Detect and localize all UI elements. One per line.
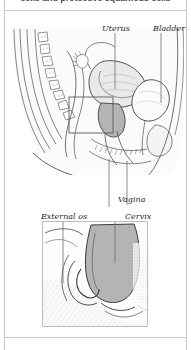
label-bladder: Bladder xyxy=(153,24,185,33)
label-uterus: Uterus xyxy=(102,24,130,33)
ovary xyxy=(76,54,88,68)
cervix-detail xyxy=(85,224,139,303)
page-caption: cells and protective squamous cells xyxy=(6,0,185,3)
label-external-os: External os xyxy=(41,212,87,221)
page-border-bottom xyxy=(4,337,187,338)
anatomy-figure: Uterus Bladder Vagina External os Cervix xyxy=(5,11,186,337)
page-border-right xyxy=(186,0,187,350)
detail-panel xyxy=(43,222,163,326)
overview-panel xyxy=(11,27,184,189)
figure-page: cells and protective squamous cells xyxy=(0,0,191,350)
anatomy-illustration xyxy=(5,11,186,337)
label-cervix: Cervix xyxy=(125,212,151,221)
label-vagina: Vagina xyxy=(118,195,145,204)
